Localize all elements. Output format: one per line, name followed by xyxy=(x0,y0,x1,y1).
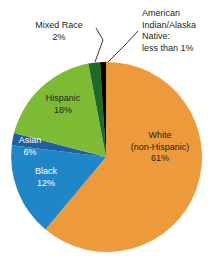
callout-mixed-race-value: 2% xyxy=(20,32,98,44)
slice-label-asian-name: Asian xyxy=(0,135,60,147)
callout-aian-value: less than 1% xyxy=(142,43,217,55)
pie-chart: Mixed Race 2% American Indian/Alaska Nat… xyxy=(0,0,217,261)
slice-label-white-line1: White xyxy=(110,130,210,142)
slice-label-black: Black 12% xyxy=(12,166,80,189)
slice-label-white-line2: (non-Hispanic) xyxy=(110,142,210,154)
slice-label-asian-value: 6% xyxy=(0,147,60,159)
callout-american-indian-alaska-native: American Indian/Alaska Native: less than… xyxy=(142,8,217,54)
slice-label-black-name: Black xyxy=(12,166,80,178)
callout-mixed-race: Mixed Race 2% xyxy=(20,20,98,43)
slice-label-black-value: 12% xyxy=(12,178,80,190)
callout-aian-line3: Native: xyxy=(142,31,217,43)
slice-label-hispanic-value: 18% xyxy=(18,105,108,117)
slice-label-white-value: 61% xyxy=(110,153,210,165)
slice-label-asian: Asian 6% xyxy=(0,135,60,158)
slice-label-hispanic: Hispanic 18% xyxy=(18,93,108,116)
callout-mixed-race-name: Mixed Race xyxy=(20,20,98,32)
callout-aian-line2: Indian/Alaska xyxy=(142,20,217,32)
leader-line-american-indian-alaska-native xyxy=(108,31,138,62)
slice-label-hispanic-name: Hispanic xyxy=(18,93,108,105)
callout-aian-line1: American xyxy=(142,8,217,20)
slice-label-white-non-hispanic: White (non-Hispanic) 61% xyxy=(110,130,210,165)
